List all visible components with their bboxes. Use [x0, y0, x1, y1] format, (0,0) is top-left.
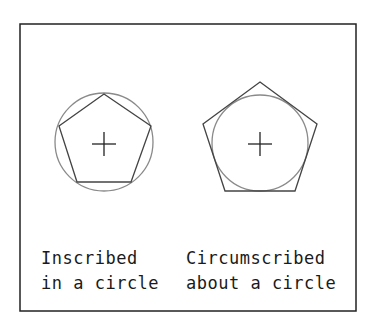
inscribed-figure	[55, 93, 153, 191]
center-mark-icon	[248, 132, 272, 156]
center-mark-icon	[92, 132, 116, 156]
inscribed-label-line1: Inscribed	[41, 247, 138, 269]
inscribed-label-line2: in a circle	[41, 272, 159, 294]
circumscribed-figure	[203, 82, 317, 191]
circumscribed-label-line2: about a circle	[186, 272, 336, 294]
inscribed-pentagon	[59, 94, 151, 182]
circumscribed-label-line1: Circumscribed	[186, 247, 326, 269]
